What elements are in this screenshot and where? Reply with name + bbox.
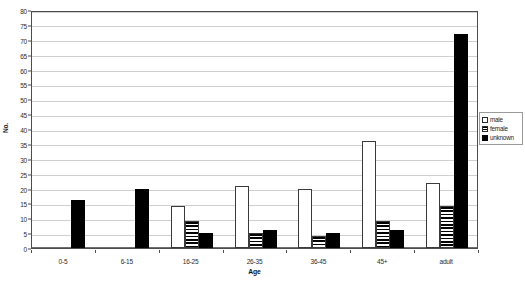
y-axis-tick-label: 40 xyxy=(20,127,27,134)
gridline xyxy=(32,145,477,146)
bar-unknown-adult xyxy=(454,34,468,248)
gridline xyxy=(32,41,477,42)
legend-item-male: male xyxy=(482,115,520,124)
x-axis-tick-label: 0-5 xyxy=(31,258,95,265)
bar-unknown-16-25 xyxy=(199,233,213,248)
gridline xyxy=(32,220,477,221)
y-axis-tick-label: 50 xyxy=(20,97,27,104)
bar-male-adult xyxy=(426,183,440,248)
bar-male-26-35 xyxy=(235,186,249,248)
x-axis-tick-mark xyxy=(31,250,32,253)
y-axis-tick-label: 10 xyxy=(20,216,27,223)
y-axis: 05101520253035404550556065707580 xyxy=(0,11,31,249)
gridline xyxy=(32,190,477,191)
gridline xyxy=(32,205,477,206)
legend-item-unknown: unknown xyxy=(482,133,520,142)
x-axis-tick-label: 16-25 xyxy=(159,258,223,265)
legend-item-label: female xyxy=(490,125,508,132)
x-axis-tick-label: 6-15 xyxy=(95,258,159,265)
gridline xyxy=(32,71,477,72)
y-axis-tick-label: 75 xyxy=(20,22,27,29)
y-axis-tick-label: 25 xyxy=(20,171,27,178)
striped-square-icon xyxy=(482,126,488,132)
bar-chart: No. 05101520253035404550556065707580 0-5… xyxy=(0,0,525,291)
gridline xyxy=(32,12,477,13)
y-axis-tick-label: 0 xyxy=(24,246,27,253)
y-axis-tick-label: 5 xyxy=(24,231,27,238)
bar-male-16-25 xyxy=(171,206,185,248)
gridline xyxy=(32,101,477,102)
bar-unknown-6-15 xyxy=(135,189,149,249)
x-axis-title: Age xyxy=(31,268,478,275)
legend-item-label: unknown xyxy=(490,134,514,141)
y-axis-tick-label: 65 xyxy=(20,52,27,59)
x-axis-tick-mark xyxy=(478,250,479,253)
bar-female-16-25 xyxy=(185,221,199,248)
y-axis-tick-label: 45 xyxy=(20,112,27,119)
bar-unknown-26-35 xyxy=(263,230,277,248)
x-axis-tick-label: 36-45 xyxy=(286,258,350,265)
bar-male-45+ xyxy=(362,141,376,248)
chart-legend: malefemaleunknown xyxy=(479,112,523,145)
gridline xyxy=(32,131,477,132)
x-axis-tick-label: 45+ xyxy=(350,258,414,265)
legend-item-female: female xyxy=(482,124,520,133)
y-axis-tick-label: 20 xyxy=(20,186,27,193)
bar-female-26-35 xyxy=(249,233,263,248)
bar-unknown-45+ xyxy=(390,230,404,248)
gridline xyxy=(32,56,477,57)
y-axis-tick-label: 30 xyxy=(20,156,27,163)
gridline xyxy=(32,86,477,87)
bar-female-36-45 xyxy=(312,236,326,248)
y-axis-tick-label: 60 xyxy=(20,67,27,74)
bar-unknown-36-45 xyxy=(326,233,340,248)
gridline xyxy=(32,160,477,161)
black-square-icon xyxy=(482,135,488,141)
bar-unknown-0-5 xyxy=(71,200,85,248)
white-square-icon xyxy=(482,117,488,123)
gridline xyxy=(32,26,477,27)
y-axis-tick-label: 55 xyxy=(20,82,27,89)
y-axis-tick-label: 15 xyxy=(20,201,27,208)
bar-female-45+ xyxy=(376,221,390,248)
x-axis-tick-label: 26-35 xyxy=(223,258,287,265)
y-axis-tick-label: 35 xyxy=(20,141,27,148)
y-axis-tick-label: 80 xyxy=(20,8,27,15)
plot-area xyxy=(31,11,478,249)
gridline xyxy=(32,175,477,176)
legend-item-label: male xyxy=(490,116,503,123)
gridline xyxy=(32,116,477,117)
bar-male-36-45 xyxy=(298,189,312,249)
y-axis-tick-label: 70 xyxy=(20,37,27,44)
bar-female-adult xyxy=(440,206,454,248)
x-axis-tick-label: adult xyxy=(414,258,478,265)
